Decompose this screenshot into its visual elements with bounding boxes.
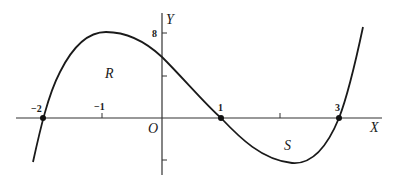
root-point-1 [218, 115, 224, 121]
x-label-neg1: −1 [94, 101, 105, 112]
y-label-8: 8 [152, 28, 157, 39]
root-point-neg2 [40, 115, 46, 121]
cubic-graph: −2 −1 1 3 8 Y X O R S [0, 0, 393, 187]
region-s-label: S [284, 138, 291, 153]
cubic-curve [33, 27, 363, 163]
y-axis-label: Y [166, 12, 176, 27]
origin-label: O [148, 121, 158, 136]
x-label-1: 1 [218, 102, 223, 113]
x-label-neg2: −2 [31, 103, 42, 114]
x-axis-label: X [369, 120, 379, 135]
region-r-label: R [104, 66, 114, 81]
x-label-3: 3 [335, 102, 340, 113]
root-point-3 [336, 115, 342, 121]
